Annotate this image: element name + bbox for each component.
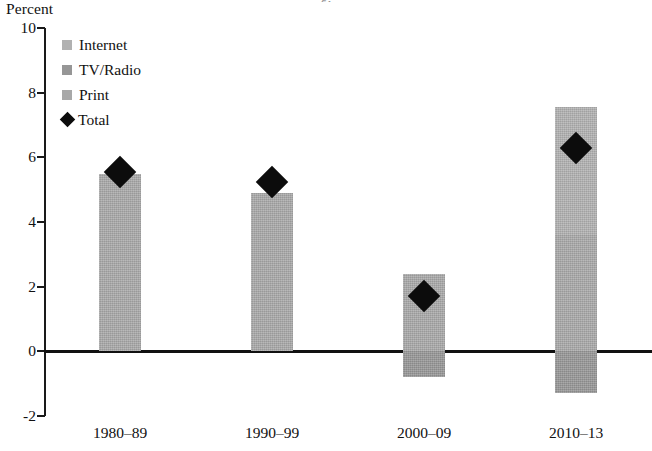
bar-group [251,28,293,416]
y-axis-tick-label: -2 [2,408,36,424]
y-axis-tick-label: 4 [2,214,36,230]
legend-item: Total [62,107,232,132]
legend-label: Total [78,112,110,128]
square-swatch-icon [62,65,72,75]
chart-legend: InternetTV/RadioPrintTotal [62,32,232,132]
diamond-marker-icon [60,112,76,128]
x-axis-label: 1990–99 [245,424,299,442]
bar-segment [403,351,445,377]
y-axis-tick-label: 10 [2,20,36,36]
legend-item: Internet [62,32,232,57]
bar-segment [555,235,597,351]
bar-group [555,28,597,416]
y-axis-tick-label: 2 [2,279,36,295]
bar-segment [555,107,597,235]
y-axis-tick-label: 8 [2,85,36,101]
x-axis-label: 1980–89 [93,424,147,442]
square-swatch-icon [62,40,72,50]
x-axis-label: 2010–13 [549,424,603,442]
x-axis-label: 2000–09 [397,424,451,442]
bar-segment [251,193,293,351]
bar-segment [555,351,597,393]
square-swatch-icon [62,90,72,100]
legend-label: Print [79,87,109,103]
y-axis-title: Percent [6,0,53,18]
legend-label: TV/Radio [79,62,141,78]
y-axis-tick-label: 6 [2,149,36,165]
y-axis-tick-label: 0 [2,343,36,359]
chart-container: g, Percent -20246810 1980–891990–992000–… [0,0,652,451]
chart-title-fragment: g, [0,0,652,2]
legend-label: Internet [79,37,127,53]
legend-item: Print [62,82,232,107]
legend-item: TV/Radio [62,57,232,82]
bar-group [403,28,445,416]
bar-segment [99,174,141,352]
